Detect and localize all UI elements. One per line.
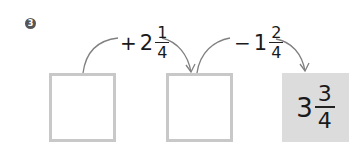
whole-number: 2	[140, 33, 153, 54]
numerator: 1	[155, 25, 169, 43]
numerator: 2	[269, 25, 283, 43]
whole-number: 1	[254, 33, 267, 54]
answer-box-middle[interactable]	[166, 73, 233, 142]
arc-right-rise	[197, 38, 230, 73]
operation-add: + 2 1 4	[120, 25, 169, 61]
fraction: 1 4	[155, 25, 169, 61]
minus-sign: −	[234, 33, 251, 53]
arc-left-rise	[83, 38, 118, 73]
denominator: 4	[157, 43, 167, 61]
denominator: 4	[318, 108, 332, 132]
denominator: 4	[271, 43, 281, 61]
result-value: 3 3 4	[285, 76, 346, 139]
numerator: 3	[315, 83, 335, 108]
fraction: 2 4	[269, 25, 283, 61]
answer-box-start[interactable]	[49, 73, 116, 142]
operation-subtract: − 1 2 4	[234, 25, 283, 61]
result-box: 3 3 4	[282, 73, 349, 142]
whole-number: 3	[296, 93, 313, 123]
fraction: 3 4	[315, 83, 335, 132]
plus-sign: +	[120, 33, 137, 53]
